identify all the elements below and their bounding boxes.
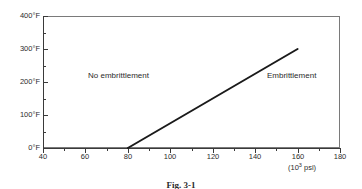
y-axis-tick-minor: [43, 33, 46, 34]
x-axis-tick-minor: [276, 148, 277, 151]
x-axis-title: (103 psi): [288, 163, 316, 172]
y-axis-tick-major: [43, 82, 48, 83]
y-axis-tick-minor: [43, 99, 46, 100]
x-axis-tick-label: 100: [155, 152, 185, 161]
y-axis-tick-label: 200°F: [0, 78, 40, 86]
x-axis-tick-minor: [319, 148, 320, 151]
figure-container: 0°F100°F200°F300°F400°F 4060801001201401…: [0, 0, 362, 189]
region-label-embrittlement: Embrittlement: [267, 71, 316, 81]
x-axis-tick-label: 80: [113, 152, 143, 161]
y-axis-tick-minor: [43, 66, 46, 67]
x-axis-tick-label: 120: [198, 152, 228, 161]
y-axis-tick-label: 100°F: [0, 111, 40, 119]
y-axis-tick-label: 0°F: [0, 144, 40, 152]
x-axis-tick-label: 140: [240, 152, 270, 161]
x-axis-tick-label: 60: [70, 152, 100, 161]
x-axis-tick-minor: [234, 148, 235, 151]
y-axis-tick-major: [43, 49, 48, 50]
plot-frame: [43, 16, 340, 148]
y-axis-tick-major: [43, 16, 48, 17]
x-axis-tick-label: 40: [28, 152, 58, 161]
y-axis-tick-label: 400°F: [0, 12, 40, 20]
region-label-no-embrittlement: No embrittlement: [88, 71, 149, 81]
x-axis-tick-label: 160: [283, 152, 313, 161]
y-axis-tick-minor: [43, 132, 46, 133]
y-axis-tick-major: [43, 115, 48, 116]
x-axis-tick-minor: [149, 148, 150, 151]
x-axis-tick-minor: [107, 148, 108, 151]
figure-caption: Fig. 3-1: [0, 180, 362, 189]
x-axis-title-suffix: psi): [302, 163, 316, 172]
x-axis-tick-minor: [64, 148, 65, 151]
x-axis-tick-minor: [192, 148, 193, 151]
x-axis-tick-label: 180: [325, 152, 355, 161]
y-axis-tick-label: 300°F: [0, 45, 40, 53]
x-axis-title-prefix: (10: [288, 163, 299, 172]
